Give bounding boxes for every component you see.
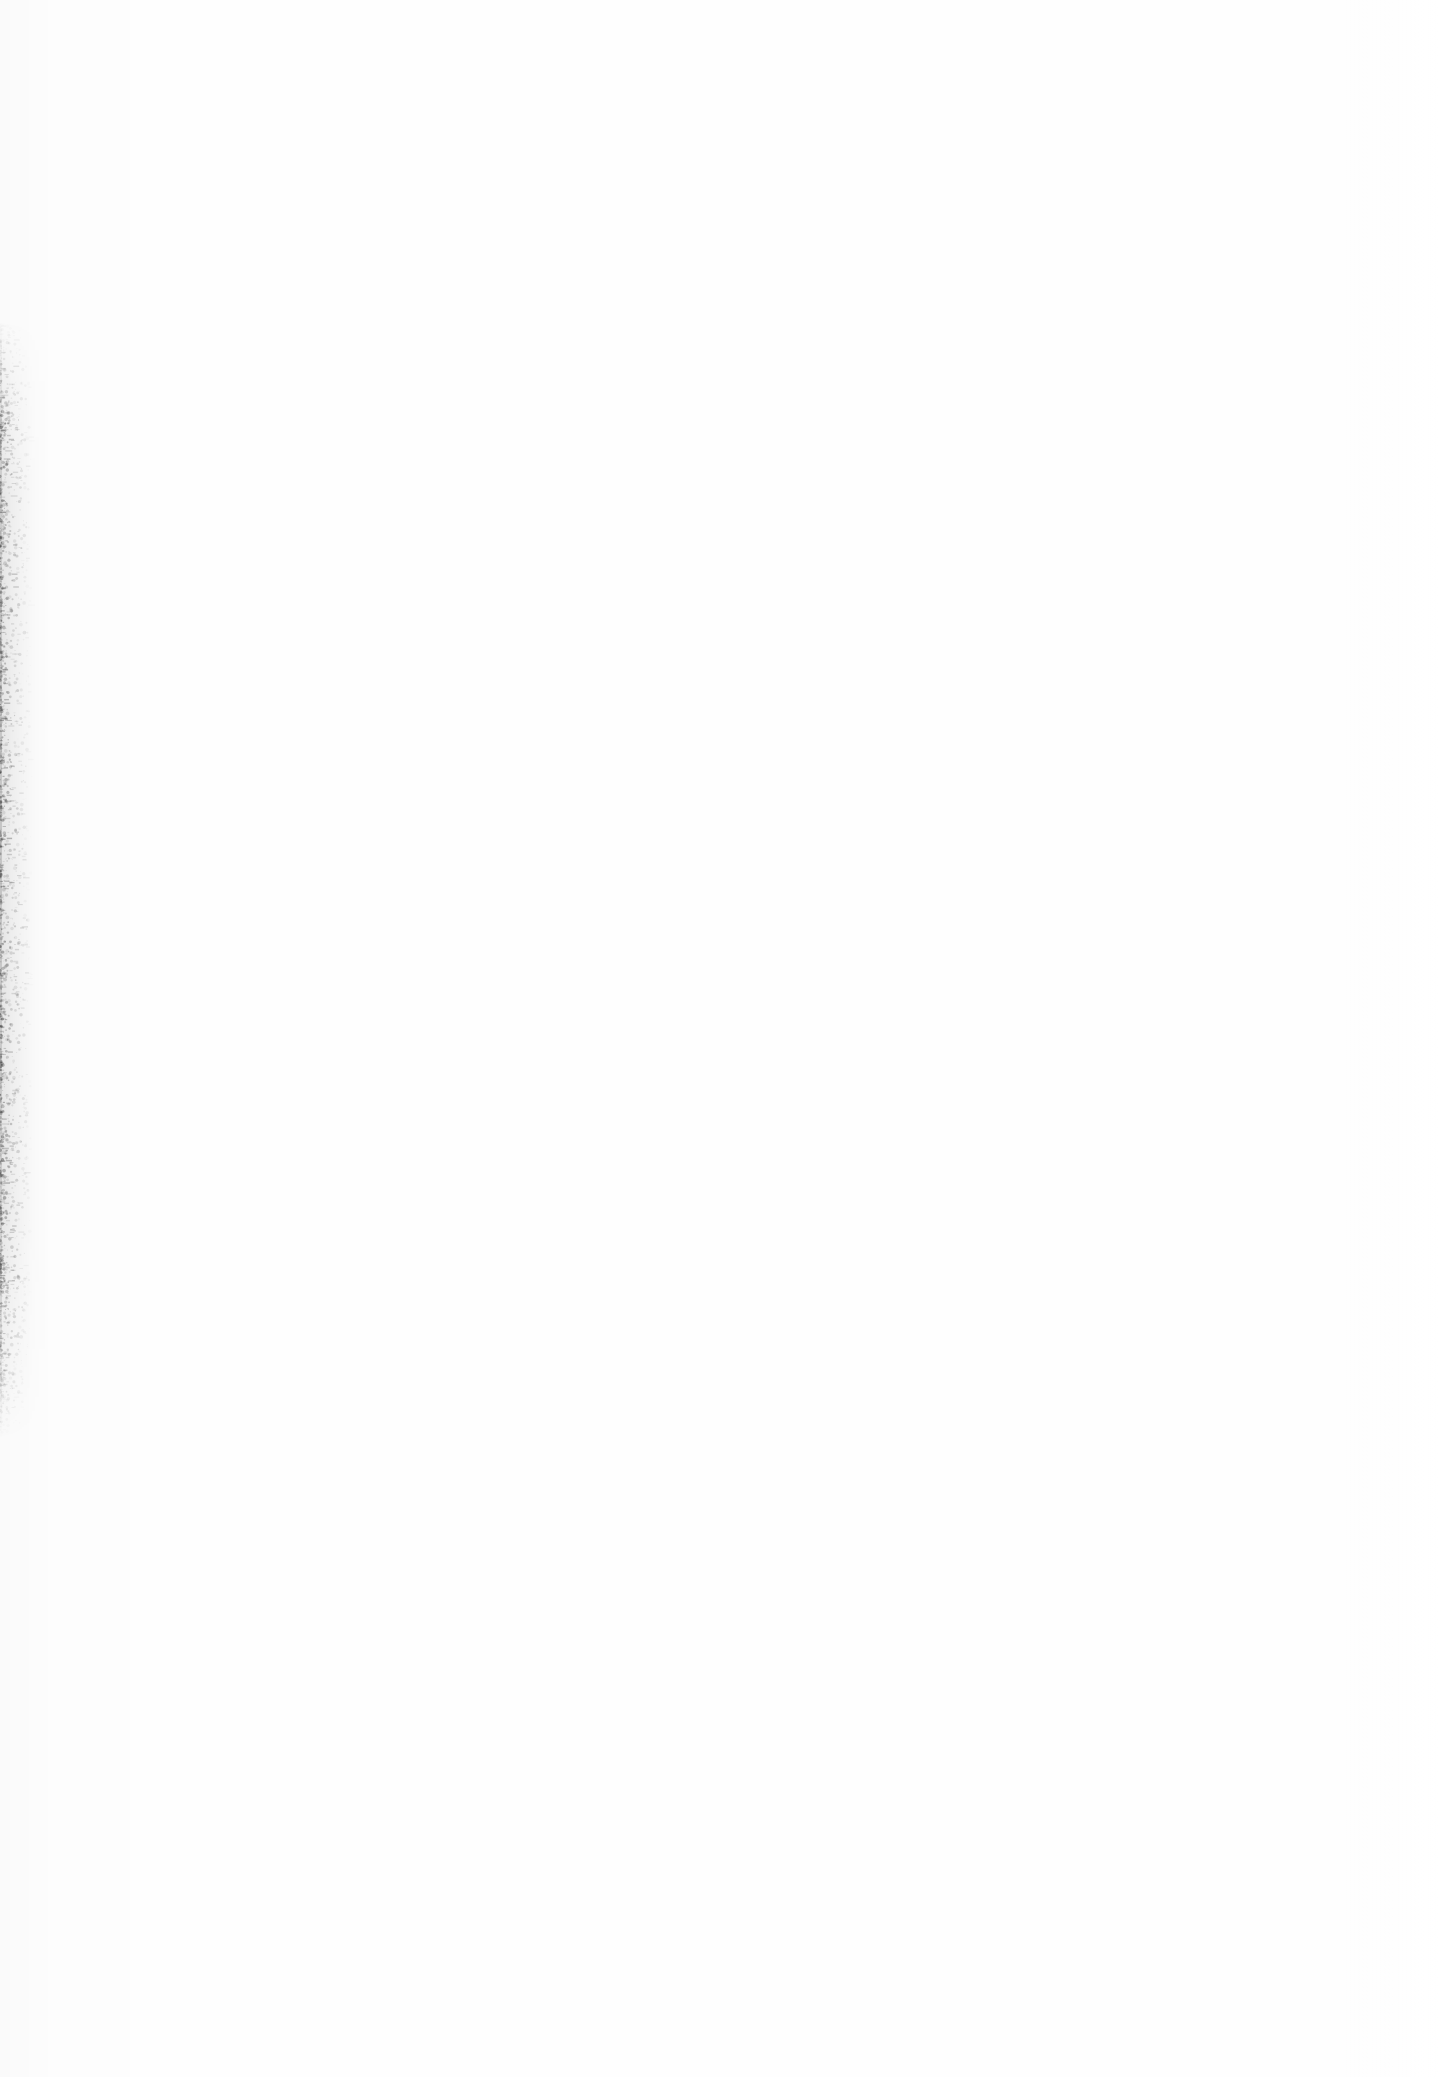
scanned-page — [0, 0, 1439, 2077]
page-substrate — [0, 0, 1439, 2077]
